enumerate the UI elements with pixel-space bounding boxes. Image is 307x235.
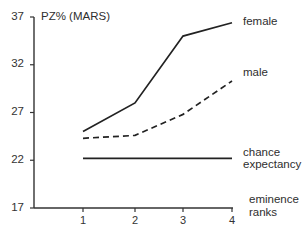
series-label-male: male — [243, 66, 268, 79]
series-label-chance-2: expectancy — [243, 158, 301, 171]
y-tick-label: 32 — [2, 57, 24, 69]
x-tick-label: 4 — [226, 214, 238, 226]
series-line-male — [83, 81, 232, 138]
y-tick-label: 27 — [2, 105, 24, 117]
x-axis-label: eminence — [249, 193, 299, 206]
x-tick-label: 2 — [129, 214, 141, 226]
y-tick-label: 37 — [2, 10, 24, 22]
x-tick-label: 3 — [177, 214, 189, 226]
series-label-female: female — [243, 15, 278, 28]
y-tick-label: 22 — [2, 153, 24, 165]
x-tick-label: 1 — [77, 214, 89, 226]
y-axis-label: PZ% (MARS) — [41, 10, 110, 23]
series-line-female — [83, 23, 232, 132]
y-tick-label: 17 — [2, 201, 24, 213]
line-chart: PZ% (MARS) 37 32 27 22 17 1 2 3 4 female… — [0, 0, 307, 235]
x-axis-label-2: ranks — [249, 206, 277, 219]
